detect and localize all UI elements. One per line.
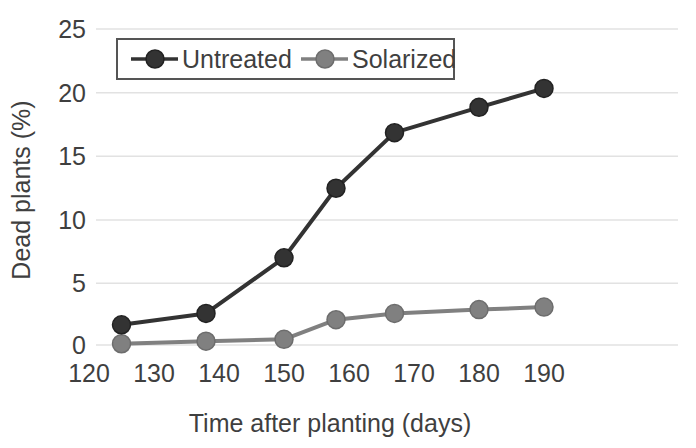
y-axis-tick-labels: 25 20 15 10 5 0 — [58, 15, 86, 359]
legend-label-untreated: Untreated — [182, 45, 292, 73]
data-point — [535, 79, 553, 97]
data-point — [113, 316, 131, 334]
x-tick-label-160: 160 — [328, 359, 370, 387]
data-point — [197, 332, 215, 350]
y-tick-label-0: 0 — [72, 331, 86, 359]
legend-marker-untreated — [146, 50, 164, 68]
x-tick-label-150: 150 — [263, 359, 305, 387]
data-point — [470, 98, 488, 116]
y-tick-label-10: 10 — [58, 206, 86, 234]
legend-label-solarized: Solarized — [352, 45, 456, 73]
x-tick-label-140: 140 — [198, 359, 240, 387]
x-tick-label-180: 180 — [458, 359, 500, 387]
x-tick-label-130: 130 — [133, 359, 175, 387]
chart-legend[interactable]: Untreated Solarized — [117, 39, 456, 79]
data-point — [327, 179, 345, 197]
x-tick-label-190: 190 — [523, 359, 565, 387]
x-axis-title: Time after planting (days) — [189, 409, 472, 437]
data-point — [113, 335, 131, 353]
x-axis-tick-labels: 120 130 140 150 160 170 180 190 — [68, 359, 565, 387]
y-tick-label-15: 15 — [58, 142, 86, 170]
y-axis-title: Dead plants (%) — [7, 100, 35, 279]
y-tick-label-20: 20 — [58, 79, 86, 107]
y-tick-label-5: 5 — [72, 269, 86, 297]
series-untreated-points — [113, 79, 554, 333]
series-untreated — [113, 79, 554, 333]
data-point — [197, 304, 215, 322]
data-point — [470, 301, 488, 319]
series-untreated-line — [122, 88, 545, 324]
data-point — [327, 311, 345, 329]
x-tick-label-120: 120 — [68, 359, 110, 387]
data-point — [535, 298, 553, 316]
chart-figure: 25 20 15 10 5 0 120 130 140 150 160 170 … — [0, 0, 696, 448]
x-tick-label-170: 170 — [393, 359, 435, 387]
legend-marker-solarized — [316, 50, 334, 68]
y-tick-label-25: 25 — [58, 15, 86, 43]
data-point — [275, 249, 293, 267]
data-point — [275, 330, 293, 348]
data-point — [386, 304, 404, 322]
line-chart: 25 20 15 10 5 0 120 130 140 150 160 170 … — [0, 0, 696, 448]
data-point — [386, 124, 404, 142]
